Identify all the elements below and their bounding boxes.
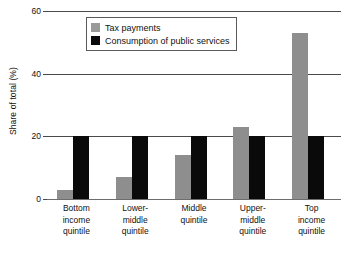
y-tick-label-40: 40: [7, 70, 41, 78]
x-tick-label-line: income: [281, 215, 343, 227]
bar: [57, 190, 73, 199]
y-tick-label-20: 20: [7, 132, 41, 140]
x-tick-label-line: middle: [104, 215, 166, 227]
x-tick-label: Middlequintile: [163, 203, 225, 226]
bar-chart: Share of total (%) 0204060 Bottomincomeq…: [0, 0, 347, 258]
x-tick-label: Lower-middlequintile: [104, 203, 166, 238]
bar: [132, 136, 148, 199]
x-tick-label-line: quintile: [222, 226, 284, 238]
bar: [308, 136, 324, 199]
x-tick-label-line: Middle: [163, 203, 225, 215]
legend-item: Consumption of public services: [91, 34, 230, 47]
x-tick-label-line: Lower-: [104, 203, 166, 215]
bar: [73, 136, 89, 199]
x-tick-label-line: quintile: [104, 226, 166, 238]
x-tick-label-line: middle: [222, 215, 284, 227]
x-tick-label-line: quintile: [163, 215, 225, 227]
legend-label: Tax payments: [105, 23, 161, 33]
x-tick-label-line: quintile: [45, 226, 107, 238]
x-tick-label-line: Top: [281, 203, 343, 215]
bar: [116, 177, 132, 199]
x-tick-label-line: income: [45, 215, 107, 227]
bar: [249, 136, 265, 199]
bar: [233, 127, 249, 199]
y-tick-label-60: 60: [7, 7, 41, 15]
x-tick-label-line: Bottom: [45, 203, 107, 215]
gridline-0: [47, 199, 341, 200]
y-axis-title: Share of total (%): [8, 41, 18, 161]
y-tick-label-0: 0: [7, 195, 41, 203]
bar: [175, 155, 191, 199]
legend-swatch-icon: [91, 36, 100, 45]
legend-item: Tax payments: [91, 21, 230, 34]
legend-swatch-icon: [91, 23, 100, 32]
bar-group: [282, 11, 341, 199]
bar: [292, 33, 308, 199]
x-axis-tick-labels: BottomincomequintileLower-middlequintile…: [47, 203, 341, 255]
legend-label: Consumption of public services: [105, 36, 230, 46]
x-tick-label-line: quintile: [281, 226, 343, 238]
y-tick-mark-0: [43, 199, 47, 200]
chart-legend: Tax paymentsConsumption of public servic…: [86, 17, 237, 51]
x-tick-label: Bottomincomequintile: [45, 203, 107, 238]
x-tick-label: Topincomequintile: [281, 203, 343, 238]
x-tick-label: Upper-middlequintile: [222, 203, 284, 238]
bar: [191, 136, 207, 199]
x-tick-label-line: Upper-: [222, 203, 284, 215]
